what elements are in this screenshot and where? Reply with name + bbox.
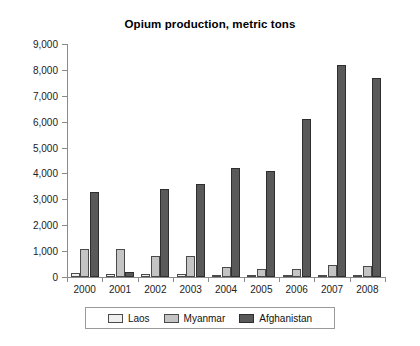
bar-laos-2001	[106, 274, 115, 277]
y-axis-tick-label: 5,000	[33, 142, 58, 153]
x-axis-tick-label: 2004	[215, 284, 237, 295]
chart-container: Opium production, metric tons 01,0002,00…	[0, 0, 420, 346]
y-axis-tick	[62, 70, 67, 71]
clipped-top-text	[0, 0, 420, 6]
bar-afghanistan-2005	[266, 171, 275, 277]
chart-title: Opium production, metric tons	[0, 18, 420, 30]
y-axis-tick-label: 1,000	[33, 246, 58, 257]
bar-group	[247, 44, 275, 277]
bar-myanmar-2003	[186, 256, 195, 277]
y-axis-tick-label: 4,000	[33, 168, 58, 179]
legend-item-afghanistan[interactable]: Afghanistan	[239, 313, 312, 324]
y-axis-tick	[62, 251, 67, 252]
bar-afghanistan-2007	[337, 65, 346, 277]
x-axis-tick-label: 2006	[286, 284, 308, 295]
y-axis-tick	[62, 148, 67, 149]
bar-myanmar-2006	[292, 269, 301, 277]
x-axis-tick-label: 2005	[250, 284, 272, 295]
y-axis-tick-label: 8,000	[33, 64, 58, 75]
legend-swatch-myanmar-icon	[164, 314, 179, 323]
x-axis-tick-label: 2002	[144, 284, 166, 295]
x-axis-tick	[244, 277, 245, 282]
bar-afghanistan-2002	[160, 189, 169, 277]
bar-group	[212, 44, 240, 277]
y-axis-tick-label: 0	[52, 272, 58, 283]
legend-swatch-afghanistan-icon	[239, 314, 254, 323]
x-axis-tick	[138, 277, 139, 282]
bar-group	[177, 44, 205, 277]
y-axis-tick-label: 2,000	[33, 220, 58, 231]
bar-myanmar-2007	[328, 265, 337, 277]
bar-group	[318, 44, 346, 277]
bar-afghanistan-2000	[90, 192, 99, 277]
x-axis-tick	[314, 277, 315, 282]
bar-laos-2006	[283, 275, 292, 277]
bar-myanmar-2005	[257, 269, 266, 277]
bar-afghanistan-2004	[231, 168, 240, 277]
bar-myanmar-2001	[116, 249, 125, 277]
y-axis-line	[67, 44, 68, 277]
bar-group	[71, 44, 99, 277]
bar-group	[283, 44, 311, 277]
bar-group	[353, 44, 381, 277]
bar-laos-2000	[71, 273, 80, 277]
legend-label: Laos	[128, 313, 150, 324]
y-axis-tick	[62, 173, 67, 174]
plot-area: 01,0002,0003,0004,0005,0006,0007,0008,00…	[67, 44, 385, 277]
bar-afghanistan-2008	[372, 78, 381, 277]
x-axis-tick	[385, 277, 386, 282]
bar-group	[106, 44, 134, 277]
bar-laos-2004	[212, 275, 221, 277]
x-axis-tick	[67, 277, 68, 282]
x-axis-tick	[173, 277, 174, 282]
legend-item-myanmar[interactable]: Myanmar	[164, 313, 226, 324]
x-axis-tick	[350, 277, 351, 282]
y-axis-tick-label: 9,000	[33, 39, 58, 50]
bar-afghanistan-2003	[196, 184, 205, 277]
legend-swatch-laos-icon	[108, 314, 123, 323]
bar-group	[141, 44, 169, 277]
bar-myanmar-2008	[363, 266, 372, 277]
legend-label: Afghanistan	[259, 313, 312, 324]
bar-laos-2002	[141, 274, 150, 277]
bar-laos-2007	[318, 275, 327, 277]
x-axis-tick-label: 2008	[356, 284, 378, 295]
x-axis-tick	[102, 277, 103, 282]
y-axis-tick	[62, 96, 67, 97]
x-axis-tick	[208, 277, 209, 282]
y-axis-tick	[62, 199, 67, 200]
bar-laos-2005	[247, 275, 256, 277]
x-axis-tick	[279, 277, 280, 282]
bar-afghanistan-2006	[302, 119, 311, 277]
x-axis-line	[67, 277, 385, 278]
y-axis-tick	[62, 122, 67, 123]
x-axis-tick-label: 2000	[74, 284, 96, 295]
y-axis-tick-label: 6,000	[33, 116, 58, 127]
x-axis-tick-label: 2003	[180, 284, 202, 295]
bar-myanmar-2000	[80, 249, 89, 277]
bar-myanmar-2004	[222, 267, 231, 277]
bar-laos-2008	[353, 275, 362, 277]
y-axis-tick-label: 3,000	[33, 194, 58, 205]
y-axis-tick	[62, 225, 67, 226]
bar-laos-2003	[177, 274, 186, 277]
bar-afghanistan-2001	[125, 272, 134, 277]
legend-item-laos[interactable]: Laos	[108, 313, 150, 324]
bar-myanmar-2002	[151, 256, 160, 277]
chart-legend: LaosMyanmarAfghanistan	[85, 307, 335, 329]
x-axis-tick-label: 2001	[109, 284, 131, 295]
legend-label: Myanmar	[184, 313, 226, 324]
y-axis-tick-label: 7,000	[33, 90, 58, 101]
x-axis-tick-label: 2007	[321, 284, 343, 295]
y-axis-tick	[62, 44, 67, 45]
